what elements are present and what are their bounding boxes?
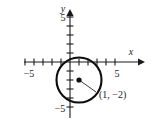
center-label-leader-line [81,81,97,92]
x-axis-arrow-icon [138,58,145,65]
x-axis-negative-tick-label: −5 [24,68,35,79]
y-axis-negative-tick-label: −5 [55,103,66,114]
center-point-label: (1, −2) [99,89,126,101]
coordinate-plane-graph: −5 5 5 −5 x y (1, −2) [0,0,152,127]
center-point-marker [76,77,81,82]
x-axis-label: x [128,46,134,57]
y-axis-arrow-icon [66,9,73,16]
x-axis-positive-tick-label: 5 [115,68,120,79]
figure-container: −5 5 5 −5 x y (1, −2) [0,0,152,127]
y-axis-label: y [60,3,66,14]
